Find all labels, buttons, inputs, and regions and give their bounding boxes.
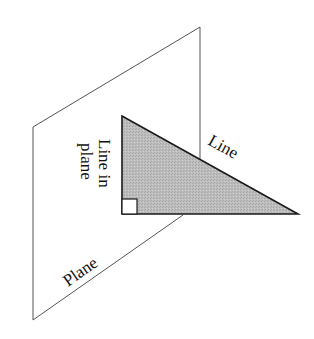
diagram-canvas: Line Line in plane Plane [0, 0, 314, 339]
label-line: Line [205, 131, 241, 163]
plane-bottom-edge [33, 215, 183, 320]
label-line-in-plane-2: plane [77, 143, 96, 180]
plane-top-edge [33, 27, 200, 127]
label-line-in-plane-1: Line in [95, 139, 114, 188]
triangle [122, 116, 298, 214]
label-plane: Plane [59, 253, 101, 290]
right-angle-marker [122, 199, 137, 214]
